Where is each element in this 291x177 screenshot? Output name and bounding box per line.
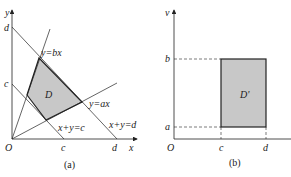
y-tick-d: d — [4, 22, 10, 33]
v-tick-a: a — [165, 121, 170, 132]
region-d-label: D — [44, 89, 53, 100]
panel-b: v O b a c d D' (b) — [165, 7, 291, 169]
x-tick-c: c — [61, 142, 66, 153]
v-axis-label: v — [165, 7, 170, 18]
label-x-plus-y-c: x+y=c — [57, 122, 85, 133]
diagram-canvas: y x O d c c d D y=bx y=ax x+y=c x+y=d (a… — [0, 0, 291, 177]
x-axis-label: x — [128, 142, 134, 153]
v-tick-b: b — [165, 53, 170, 64]
caption-a: (a) — [64, 159, 75, 171]
region-d — [27, 58, 82, 120]
region-d-prime-label: D' — [239, 89, 250, 100]
y-axis-label: y — [4, 7, 10, 18]
u-tick-d: d — [263, 142, 269, 153]
caption-b: (b) — [229, 157, 241, 169]
x-tick-d: d — [112, 142, 118, 153]
label-y-bx: y=bx — [40, 47, 62, 58]
u-tick-c: c — [219, 142, 224, 153]
label-x-plus-y-d: x+y=d — [108, 119, 137, 130]
origin-label-b: O — [167, 142, 174, 153]
panel-a: y x O d c c d D y=bx y=ax x+y=c x+y=d (a… — [4, 7, 137, 171]
origin-label: O — [5, 142, 12, 153]
label-y-ax: y=ax — [88, 98, 110, 109]
y-tick-c: c — [4, 78, 9, 89]
